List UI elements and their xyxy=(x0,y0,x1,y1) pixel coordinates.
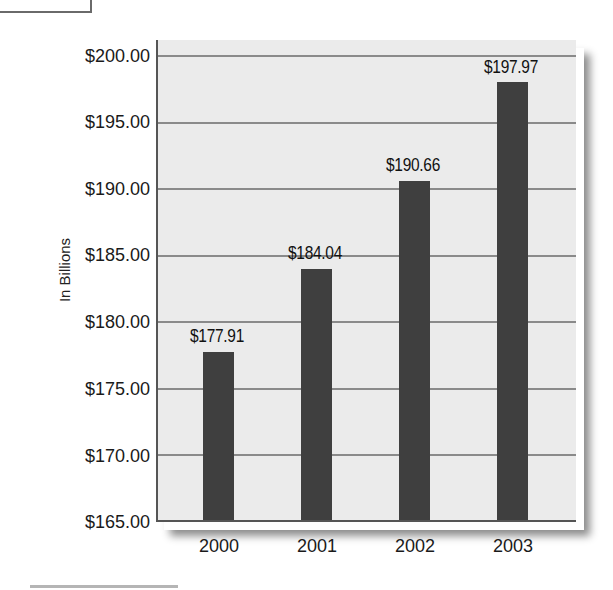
bar-2000 xyxy=(203,352,234,520)
y-tick-label: $200.00 xyxy=(40,46,150,66)
y-tick-label: $190.00 xyxy=(40,179,150,199)
y-tick-label: $175.00 xyxy=(40,379,150,399)
bar-value-label: $190.66 xyxy=(370,155,456,176)
x-tick-label: 2000 xyxy=(179,536,259,557)
bar-2003 xyxy=(497,82,528,520)
bar-value-label: $197.97 xyxy=(468,57,554,78)
y-tick-label: $180.00 xyxy=(40,312,150,332)
plot-area: $177.91 $184.04 $190.66 $197.97 xyxy=(156,40,576,522)
x-tick-label: 2003 xyxy=(473,536,553,557)
bar-value-label: $177.91 xyxy=(174,326,260,347)
y-tick-label: $195.00 xyxy=(40,112,150,132)
bar-value-label: $184.04 xyxy=(272,243,358,264)
y-tick-label: $165.00 xyxy=(40,512,150,532)
x-tick-label: 2001 xyxy=(277,536,357,557)
y-tick-label: $170.00 xyxy=(40,446,150,466)
y-tick-label: $185.00 xyxy=(40,245,150,265)
x-tick-label: 2002 xyxy=(375,536,455,557)
corner-frame xyxy=(0,0,92,13)
bar-2001 xyxy=(301,269,332,520)
bar-2002 xyxy=(399,181,430,520)
footer-rule xyxy=(30,585,178,588)
